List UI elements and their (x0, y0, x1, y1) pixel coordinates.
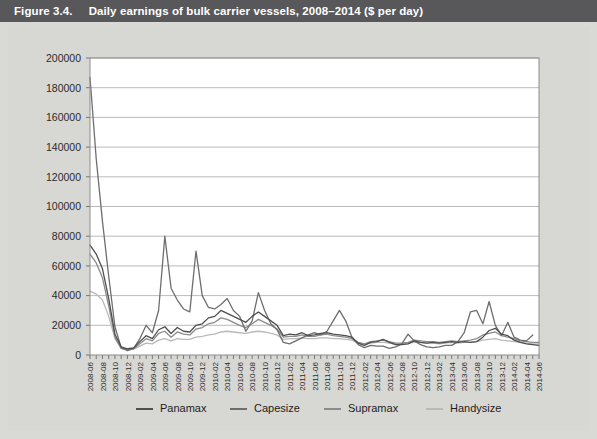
y-tick-label: 140000 (46, 141, 81, 153)
x-tick-label: 2008-10 (111, 361, 120, 391)
figure-caption-text: Daily earnings of bulk carrier vessels, … (89, 5, 424, 17)
x-tick-label: 2009-04 (149, 361, 158, 391)
x-tick-label: 2010-08 (248, 361, 257, 391)
x-tick-label: 2009-10 (186, 361, 195, 391)
x-tick-label: 2010-12 (273, 361, 282, 391)
x-tick-label: 2012-04 (373, 361, 382, 391)
x-tick-label: 2010-02 (211, 361, 220, 391)
x-tick-label: 2012-10 (410, 361, 419, 391)
x-tick-label: 2012-12 (423, 361, 432, 391)
x-tick-label: 2011-02 (286, 361, 295, 390)
x-tick-label: 2010-04 (223, 361, 232, 391)
x-tick-label: 2009-08 (174, 361, 183, 391)
x-tick-label: 2011-10 (336, 361, 345, 390)
x-tick-label: 2009-12 (198, 361, 207, 391)
y-axis-labels: 0200004000060000800001000001200001400001… (46, 52, 81, 361)
figure-caption-bar: Figure 3.4. Daily earnings of bulk carri… (0, 0, 597, 22)
x-tick-label: 2013-06 (460, 361, 469, 391)
x-tick-label: 2013-02 (435, 361, 444, 391)
legend-label-capesize: Capesize (254, 402, 300, 414)
x-tick-label: 2009-06 (161, 361, 170, 391)
x-tick-label: 2013-04 (448, 361, 457, 391)
x-tick-label: 2014-02 (510, 361, 519, 391)
x-tick-label: 2014-06 (535, 361, 544, 391)
x-tick-label: 2012-08 (398, 361, 407, 391)
x-tick-label: 2014-04 (523, 361, 532, 391)
x-tick-label: 2010-10 (261, 361, 270, 391)
legend-label-supramax: Supramax (348, 402, 399, 414)
x-tick-label: 2011-06 (311, 361, 320, 390)
y-tick-label: 20000 (52, 319, 81, 331)
y-tick-label: 160000 (46, 111, 81, 123)
legend-label-panamax: Panamax (160, 402, 207, 414)
y-axis-ticks (86, 58, 90, 355)
figure-number: Figure 3.4. (14, 5, 73, 17)
y-tick-label: 200000 (46, 52, 81, 64)
x-tick-label: 2013-10 (485, 361, 494, 391)
x-tick-label: 2011-04 (298, 361, 307, 390)
y-tick-label: 60000 (52, 260, 81, 272)
line-chart: 0200004000060000800001000001200001400001… (8, 26, 589, 431)
x-axis-ticks (90, 355, 539, 359)
figure-container: Figure 3.4. Daily earnings of bulk carri… (0, 0, 597, 439)
x-tick-label: 2012-02 (361, 361, 370, 391)
x-tick-label: 2009-02 (136, 361, 145, 391)
x-tick-label: 2010-06 (236, 361, 245, 391)
chart-panel: 0200004000060000800001000001200001400001… (8, 26, 589, 431)
x-tick-label: 2012-06 (386, 361, 395, 391)
y-tick-label: 120000 (46, 171, 81, 183)
y-tick-label: 0 (75, 349, 81, 361)
x-tick-label: 2008-12 (124, 361, 133, 391)
legend-label-handysize: Handysize (450, 402, 501, 414)
y-tick-label: 40000 (52, 289, 81, 301)
y-tick-label: 100000 (46, 200, 81, 212)
x-tick-label: 2013-08 (473, 361, 482, 391)
chart-legend: PanamaxCapesizeSupramaxHandysize (136, 402, 501, 414)
x-tick-label: 2013-12 (498, 361, 507, 391)
x-tick-label: 2011-08 (323, 361, 332, 390)
x-tick-label: 2011-12 (348, 361, 357, 390)
y-tick-label: 180000 (46, 82, 81, 94)
y-tick-label: 80000 (52, 230, 81, 242)
x-tick-label: 2008-08 (99, 361, 108, 391)
x-tick-label: 2008-06 (86, 361, 95, 391)
x-axis-labels: 2008-062008-082008-102008-122009-022009-… (86, 361, 544, 391)
